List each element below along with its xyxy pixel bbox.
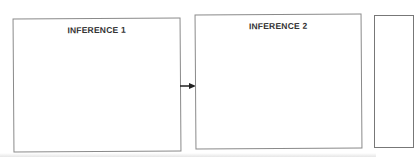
next-box-partial — [374, 15, 414, 148]
inference-2-box: INFERENCE 2 — [195, 13, 363, 149]
page-edge — [0, 153, 376, 157]
inference-2-label: INFERENCE 2 — [196, 20, 361, 31]
arrow-right-icon — [180, 82, 196, 90]
inference-1-box: INFERENCE 1 — [13, 17, 182, 152]
inference-1-label: INFERENCE 1 — [14, 24, 180, 35]
